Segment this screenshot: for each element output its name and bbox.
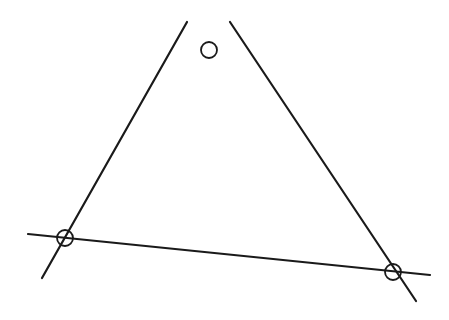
- triangle-diagram: [0, 0, 449, 320]
- vertex-top-circle-icon: [201, 42, 217, 58]
- left-side-line: [42, 22, 187, 278]
- bottom-side-line: [28, 234, 430, 275]
- right-side-line: [230, 22, 416, 301]
- triangle-lines: [28, 22, 430, 301]
